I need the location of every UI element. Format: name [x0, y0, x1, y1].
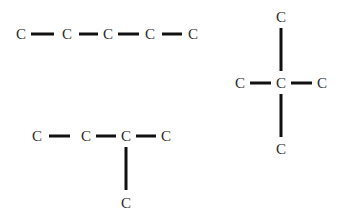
atom-label: C	[32, 128, 42, 144]
atom-label: C	[276, 9, 286, 25]
atom-label: C	[145, 26, 155, 42]
molecule-neopentane: CCCCC	[235, 9, 327, 157]
atom-label: C	[103, 26, 113, 42]
atom-label: C	[188, 26, 198, 42]
atom-label: C	[317, 75, 327, 91]
molecule-straight-chain-pentane: CCCCC	[16, 26, 198, 42]
atom-label: C	[81, 128, 91, 144]
atom-label: C	[161, 128, 171, 144]
atom-label: C	[62, 26, 72, 42]
atom-label: C	[121, 128, 131, 144]
atom-label: C	[235, 75, 245, 91]
carbon-skeleton-diagram: CCCCCCCCCCCCCCC	[0, 0, 346, 222]
atom-label: C	[276, 75, 286, 91]
atom-label: C	[16, 26, 26, 42]
atom-label: C	[121, 195, 131, 211]
atom-label: C	[276, 141, 286, 157]
molecule-isopentane: CCCCC	[32, 128, 171, 211]
